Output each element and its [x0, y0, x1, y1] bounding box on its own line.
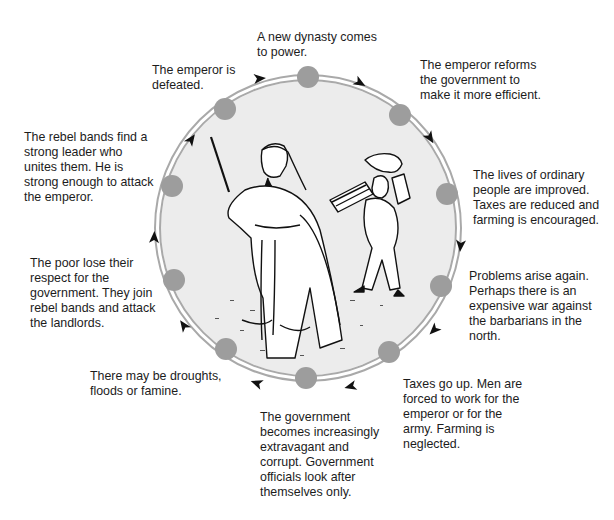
stage-node-8: [163, 269, 185, 291]
stage-label-1: A new dynasty comes to power.: [257, 30, 377, 60]
stage-label-3: The lives of ordinary people are improve…: [473, 168, 599, 228]
stage-label-4: Problems arise again. Perhaps there is a…: [469, 269, 592, 344]
stage-label-8: The poor lose their respect for the gove…: [30, 256, 155, 331]
dynastic-cycle-diagram: A new dynasty comes to power. The empero…: [0, 0, 614, 520]
stage-label-6: The government becomes increasingly extr…: [260, 410, 379, 500]
stage-node-5: [378, 341, 400, 363]
stage-node-1: [297, 66, 319, 88]
arrow-icon: [343, 380, 357, 393]
stage-label-5: Taxes go up. Men are forced to work for …: [403, 377, 522, 452]
stage-label-9: The rebel bands find a strong leader who…: [24, 130, 154, 205]
stage-node-3: [436, 183, 458, 205]
stage-label-7: There may be droughts, floods or famine.: [90, 369, 222, 399]
stage-node-4: [430, 275, 452, 297]
stage-node-10: [214, 98, 236, 120]
stage-node-9: [161, 175, 183, 197]
arrow-icon: [426, 322, 442, 338]
stage-node-6: [295, 367, 317, 389]
stage-label-2: The emperor reforms the government to ma…: [420, 58, 541, 103]
stage-node-7: [215, 338, 237, 360]
stage-node-2: [389, 104, 411, 126]
arrow-icon: [149, 231, 159, 243]
arrow-icon: [249, 376, 264, 390]
stage-label-10: The emperor is defeated.: [152, 63, 235, 93]
